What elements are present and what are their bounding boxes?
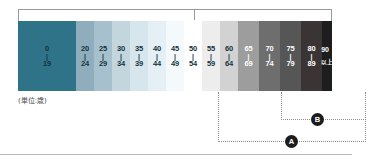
- age-band-from: 60: [225, 45, 233, 53]
- age-band-to: 89: [308, 60, 316, 68]
- age-band-separator: |: [290, 54, 292, 59]
- age-band-label: 75|79: [287, 45, 295, 67]
- age-band-to: 69: [245, 60, 253, 68]
- age-band-to: 34: [117, 60, 125, 68]
- age-band-from: 50: [189, 45, 197, 53]
- age-band-to: 29: [99, 60, 107, 68]
- age-band-to: 24: [81, 60, 89, 68]
- age-band-label: 70|74: [266, 45, 274, 67]
- age-band-label: 25|29: [99, 45, 107, 67]
- age-band-separator: |: [138, 54, 140, 59]
- age-band-from: 70: [266, 45, 274, 53]
- age-band: 20|24: [76, 21, 94, 91]
- age-band-to: 74: [266, 60, 274, 68]
- age-band-to: 49: [171, 60, 179, 68]
- age-band: 25|29: [94, 21, 112, 91]
- age-band-separator: |: [269, 54, 271, 59]
- age-band-from: 90: [321, 46, 328, 53]
- age-band: 50|54: [184, 21, 202, 91]
- age-band-to: 39: [135, 60, 143, 68]
- age-band-to: 19: [43, 60, 51, 68]
- callout-marker-a[interactable]: A: [285, 135, 298, 148]
- age-band: 35|39: [130, 21, 148, 91]
- age-band-from: 25: [99, 45, 107, 53]
- age-band-label: 80|89: [308, 45, 316, 67]
- age-band-label: 90以上: [321, 46, 333, 66]
- age-band: 30|34: [112, 21, 130, 91]
- age-band-color-strip: 0|1920|2425|2930|3435|3940|4445|4950|545…: [18, 21, 332, 91]
- age-band-label: 55|59: [207, 45, 215, 67]
- age-band-from: 0: [45, 45, 49, 53]
- age-band-from: 55: [207, 45, 215, 53]
- age-band-separator: |: [174, 54, 176, 59]
- age-band-from: 20: [81, 45, 89, 53]
- age-band: 45|49: [166, 21, 184, 91]
- age-band-separator: |: [102, 54, 104, 59]
- age-band-label: 35|39: [135, 45, 143, 67]
- age-band-separator: |: [120, 54, 122, 59]
- age-band-from: 40: [153, 45, 161, 53]
- age-band-separator: |: [156, 54, 158, 59]
- age-band: 60|64: [220, 21, 238, 91]
- age-band: 55|59: [202, 21, 220, 91]
- age-band-separator: |: [311, 54, 313, 59]
- age-band: 0|19: [18, 21, 76, 91]
- age-band-label: 20|24: [81, 45, 89, 67]
- top-bracket-center-tick: [194, 10, 195, 20]
- age-band-to: 59: [207, 60, 215, 68]
- age-band-to: 44: [153, 60, 161, 68]
- age-band-separator: |: [192, 54, 194, 59]
- age-band: 90以上: [322, 21, 332, 91]
- age-band: 70|74: [259, 21, 280, 91]
- age-band-label: 45|49: [171, 45, 179, 67]
- age-band-separator: |: [84, 54, 86, 59]
- age-band-label: 50|54: [189, 45, 197, 67]
- page-bottom-rule: [0, 154, 352, 155]
- age-band-label: 65|69: [245, 45, 253, 67]
- age-band-separator: |: [210, 54, 212, 59]
- age-band: 75|79: [280, 21, 301, 91]
- age-band: 80|89: [301, 21, 322, 91]
- age-band-from: 45: [171, 45, 179, 53]
- age-band-from: 65: [245, 45, 253, 53]
- age-band-from: 80: [308, 45, 316, 53]
- age-band-label: 0|19: [43, 45, 51, 67]
- age-band-label: 40|44: [153, 45, 161, 67]
- callout-marker-b[interactable]: B: [311, 113, 324, 126]
- age-band-to: 以上: [321, 60, 333, 66]
- age-band-label: 30|34: [117, 45, 125, 67]
- age-band-to: 54: [189, 60, 197, 68]
- age-band-separator: |: [46, 54, 48, 59]
- age-band-separator: |: [228, 54, 230, 59]
- age-band-from: 30: [117, 45, 125, 53]
- age-band-from: 35: [135, 45, 143, 53]
- age-band: 40|44: [148, 21, 166, 91]
- unit-caption: (単位:歳): [18, 95, 47, 105]
- age-band: 65|69: [238, 21, 259, 91]
- age-band-label: 60|64: [225, 45, 233, 67]
- age-band-to: 79: [287, 60, 295, 68]
- age-band-separator: |: [248, 54, 250, 59]
- age-band-from: 75: [287, 45, 295, 53]
- age-band-to: 64: [225, 60, 233, 68]
- top-bracket: [18, 9, 332, 21]
- callout-bracket-b: [281, 92, 366, 120]
